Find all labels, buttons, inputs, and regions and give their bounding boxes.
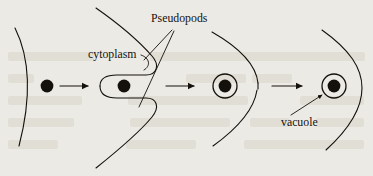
food-particle-stage-1 [41,80,54,93]
leader-pseudopods-lower [139,31,174,107]
stage-4-membrane [322,30,362,150]
diagram-canvas [0,0,373,176]
stage-1-contact [15,28,28,146]
stage-3-enclosed [212,32,258,146]
pseudopod-lower [96,86,157,168]
stage-1-membrane [15,28,28,146]
food-particle-stage-4 [328,80,341,93]
stage-4-vacuole [322,30,362,150]
food-particle-stage-3 [219,80,232,93]
leader-vacuole [291,95,322,115]
leader-cytoplasm [141,55,149,70]
stage-3-membrane-lower [213,90,257,146]
food-particle-stage-2 [118,80,131,93]
label-cytoplasm: cytoplasm [88,49,137,61]
phagocytosis-diagram: Pseudopods cytoplasm vacuole [0,0,373,176]
label-pseudopods: Pseudopods [151,13,207,25]
label-vacuole: vacuole [281,117,318,129]
